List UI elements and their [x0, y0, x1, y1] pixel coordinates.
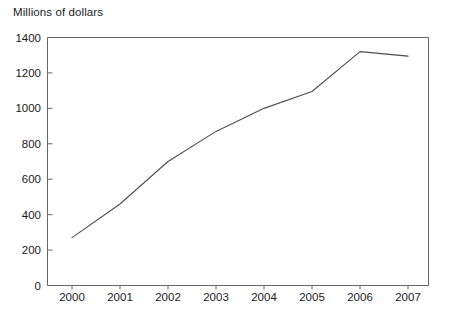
plot-frame — [48, 38, 429, 286]
y-axis-tick-label-text: 800 — [8, 138, 41, 150]
y-axis-tick-label-text: 1400 — [8, 32, 41, 44]
x-axis-tick-marks — [72, 286, 408, 290]
x-axis-tick-label: 2003 — [203, 291, 229, 303]
y-axis-tick-label-text: 0 — [8, 280, 41, 292]
y-axis-tick-label-text: 400 — [8, 209, 41, 221]
x-axis-tick-label: 2001 — [107, 291, 133, 303]
data-series-line — [72, 52, 408, 238]
y-axis-tick-label-text: 1200 — [8, 67, 41, 79]
x-axis-tick-label: 2005 — [299, 291, 325, 303]
line-chart: Millions of dollars 02004006008001000120… — [0, 0, 449, 321]
plot-area — [0, 0, 449, 321]
x-axis-tick-label: 2000 — [59, 291, 85, 303]
x-axis-tick-label: 2006 — [347, 291, 373, 303]
y-axis-tick-label-text: 200 — [8, 244, 41, 256]
chart-axis-title: Millions of dollars — [13, 6, 103, 18]
x-axis-tick-label: 2002 — [155, 291, 181, 303]
y-axis-tick-marks — [48, 73, 53, 250]
x-axis-tick-label: 2007 — [395, 291, 421, 303]
y-axis-tick-label-text: 600 — [8, 173, 41, 185]
y-axis-tick-label-text: 1000 — [8, 102, 41, 114]
x-axis-tick-label: 2004 — [251, 291, 277, 303]
